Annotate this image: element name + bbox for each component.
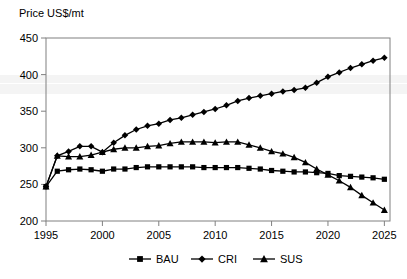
price-projection-chart: Price US$/mt 200250300350400450 19952000… (0, 0, 407, 279)
series-sus (42, 138, 387, 212)
y-tick-label: 250 (20, 178, 38, 190)
x-tick-label: 2000 (90, 229, 114, 241)
data-point-marker (77, 166, 82, 171)
data-point-marker (224, 165, 229, 170)
data-point-marker (348, 174, 353, 179)
chart-legend: BAUCRISUS (129, 253, 303, 265)
data-point-marker (88, 143, 95, 150)
legend-item-sus[interactable]: SUS (253, 253, 303, 265)
data-point-marker (213, 165, 218, 170)
y-tick-label: 350 (20, 105, 38, 117)
y-tick-label: 400 (20, 69, 38, 81)
data-point-marker (336, 69, 343, 76)
data-point-marker (212, 106, 219, 113)
data-point-marker (382, 177, 387, 182)
data-point-marker (77, 143, 84, 150)
data-point-marker (100, 169, 105, 174)
data-point-marker (381, 207, 388, 213)
data-point-marker (133, 126, 140, 133)
data-point-marker (201, 165, 206, 170)
series-bau (43, 164, 387, 189)
data-point-marker (370, 199, 377, 205)
x-tick-label: 2020 (316, 229, 340, 241)
y-tick-label: 300 (20, 142, 38, 154)
data-point-marker (144, 123, 151, 130)
data-point-marker (137, 256, 143, 262)
data-point-marker (235, 165, 240, 170)
data-point-marker (198, 255, 205, 262)
data-point-marker (347, 184, 354, 190)
data-point-marker (223, 102, 230, 109)
data-point-marker (111, 166, 116, 171)
x-tick-label: 2010 (203, 229, 227, 241)
data-point-marker (122, 132, 129, 139)
data-point-marker (190, 164, 195, 169)
data-point-marker (246, 95, 253, 102)
legend-label: SUS (280, 253, 303, 265)
y-tick-label: 200 (20, 215, 38, 227)
x-tick-label: 2025 (372, 229, 396, 241)
data-point-marker (313, 166, 320, 172)
data-point-marker (280, 169, 285, 174)
data-point-marker (358, 192, 365, 198)
data-point-marker (359, 61, 366, 67)
data-point-marker (258, 166, 263, 171)
data-point-marker (145, 164, 150, 169)
x-axis-ticks: 1995200020052010201520202025 (34, 221, 397, 241)
data-point-marker (302, 159, 309, 165)
data-point-marker (201, 109, 208, 116)
legend-label: CRI (218, 253, 237, 265)
data-point-marker (370, 57, 377, 64)
data-point-marker (66, 167, 71, 172)
x-tick-label: 1995 (34, 229, 58, 241)
background-band (0, 75, 407, 94)
data-point-marker (167, 117, 174, 124)
data-point-marker (347, 65, 354, 72)
data-point-marker (156, 164, 161, 169)
legend-item-bau[interactable]: BAU (129, 253, 179, 265)
legend-item-cri[interactable]: CRI (191, 253, 237, 265)
data-point-marker (189, 112, 196, 119)
data-point-marker (55, 169, 60, 174)
y-axis-ticks: 200250300350400450 (20, 32, 46, 227)
data-point-marker (292, 169, 297, 174)
y-tick-label: 450 (20, 32, 38, 44)
data-point-marker (122, 166, 127, 171)
data-point-marker (246, 166, 251, 171)
data-point-marker (381, 55, 388, 62)
data-point-marker (269, 168, 274, 173)
data-point-marker (89, 167, 94, 172)
data-point-marker (178, 115, 185, 122)
data-point-marker (234, 98, 241, 105)
data-point-marker (167, 164, 172, 169)
x-tick-label: 2005 (147, 229, 171, 241)
x-tick-label: 2015 (259, 229, 283, 241)
data-point-marker (370, 175, 375, 180)
plot-frame (46, 38, 390, 221)
data-point-marker (179, 164, 184, 169)
data-point-marker (156, 120, 163, 127)
chart-plot-area: 200250300350400450 199520002005201020152… (0, 0, 407, 279)
legend-label: BAU (156, 253, 179, 265)
data-point-marker (303, 169, 308, 174)
data-point-marker (134, 165, 139, 170)
data-point-marker (359, 174, 364, 179)
